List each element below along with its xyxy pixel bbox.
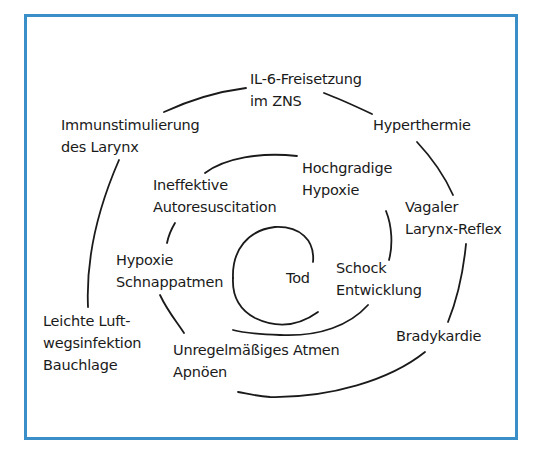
node-line: Unregelmäßiges Atmen bbox=[173, 339, 340, 361]
node-line: des Larynx bbox=[61, 136, 200, 158]
node-bradykardie: Bradykardie bbox=[396, 325, 481, 347]
spiral-segment bbox=[417, 142, 453, 195]
node-line: Larynx-Reflex bbox=[405, 218, 502, 240]
node-line: Apnöen bbox=[173, 361, 340, 383]
node-il6: IL-6-Freisetzung im ZNS bbox=[250, 68, 362, 112]
node-line: Schock bbox=[336, 257, 422, 279]
node-line: Autoresuscitation bbox=[153, 196, 276, 218]
spiral-segment bbox=[205, 155, 297, 173]
node-leichte: Leichte Luft- wegsinfektion Bauchlage bbox=[43, 310, 141, 376]
node-line: Hochgradige bbox=[302, 157, 392, 179]
node-line: Hyperthermie bbox=[373, 114, 471, 136]
node-unregelmaessig: Unregelmäßiges Atmen Apnöen bbox=[173, 339, 340, 383]
node-tod: Tod bbox=[286, 267, 310, 289]
node-line: Ineffektive bbox=[153, 174, 276, 196]
node-line: Bauchlage bbox=[43, 354, 141, 376]
spiral-segment bbox=[233, 305, 368, 335]
node-line: Bradykardie bbox=[396, 325, 481, 347]
node-line: IL-6-Freisetzung bbox=[250, 68, 362, 90]
node-line: wegsinfektion bbox=[43, 332, 141, 354]
node-immunstimulierung: Immunstimulierung des Larynx bbox=[61, 114, 200, 158]
node-line: Leichte Luft- bbox=[43, 310, 141, 332]
node-line: Vagaler bbox=[405, 196, 502, 218]
node-line: Hypoxie bbox=[302, 179, 392, 201]
node-line: Entwicklung bbox=[336, 279, 422, 301]
node-line: Hypoxie bbox=[116, 249, 223, 271]
node-line: Schnappatmen bbox=[116, 271, 223, 293]
spiral-segment bbox=[88, 160, 119, 307]
spiral-segment bbox=[164, 88, 246, 112]
spiral-segment bbox=[448, 244, 466, 322]
node-ineffektive: Ineffektive Autoresuscitation bbox=[153, 174, 276, 218]
node-line: Immunstimulierung bbox=[61, 114, 200, 136]
node-line: Tod bbox=[286, 267, 310, 289]
node-hyperthermie: Hyperthermie bbox=[373, 114, 471, 136]
node-hochgradige: Hochgradige Hypoxie bbox=[302, 157, 392, 201]
spiral-segment bbox=[167, 223, 175, 243]
node-line: im ZNS bbox=[250, 90, 362, 112]
node-schock: Schock Entwicklung bbox=[336, 257, 422, 301]
spiral-segment bbox=[386, 211, 391, 260]
node-vagaler: Vagaler Larynx-Reflex bbox=[405, 196, 502, 240]
spiral-segment bbox=[160, 295, 184, 333]
node-hypoxie: Hypoxie Schnappatmen bbox=[116, 249, 223, 293]
